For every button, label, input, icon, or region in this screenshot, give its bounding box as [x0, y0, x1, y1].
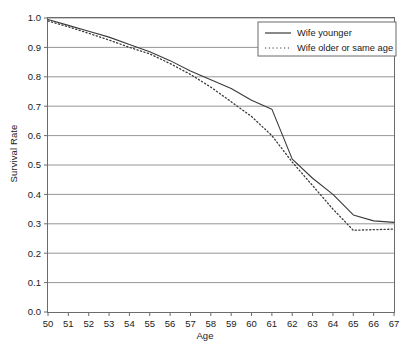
x-axis-label: Age — [0, 330, 410, 341]
x-tick-label: 64 — [328, 318, 339, 329]
x-tick-label: 55 — [144, 318, 155, 329]
survival-rate-chart: 505152535455565758596061626364656667 0.0… — [0, 0, 410, 347]
chart-legend: Wife youngerWife older or same age — [258, 22, 396, 56]
y-tick-label: 0.3 — [28, 218, 41, 229]
y-tick-label: 0.0 — [28, 306, 41, 317]
y-tick-label: 0.6 — [28, 130, 41, 141]
y-axis-ticks: 0.00.10.20.30.40.50.60.70.80.91.0 — [28, 12, 48, 317]
x-tick-label: 50 — [43, 318, 54, 329]
x-tick-label: 63 — [307, 318, 318, 329]
y-tick-label: 0.1 — [28, 277, 41, 288]
x-axis-ticks: 505152535455565758596061626364656667 — [43, 312, 400, 329]
x-tick-label: 54 — [124, 318, 135, 329]
x-tick-label: 62 — [287, 318, 298, 329]
y-tick-label: 0.4 — [28, 189, 41, 200]
y-tick-label: 0.9 — [28, 42, 41, 53]
x-tick-label: 57 — [185, 318, 196, 329]
x-tick-label: 67 — [389, 318, 400, 329]
x-tick-label: 51 — [63, 318, 74, 329]
y-tick-label: 0.7 — [28, 101, 41, 112]
x-tick-label: 52 — [83, 318, 94, 329]
y-tick-label: 1.0 — [28, 12, 41, 23]
x-tick-label: 66 — [368, 318, 379, 329]
x-tick-label: 58 — [206, 318, 217, 329]
legend-label: Wife younger — [297, 28, 352, 38]
y-tick-label: 0.2 — [28, 248, 41, 259]
x-tick-label: 59 — [226, 318, 237, 329]
x-tick-label: 61 — [267, 318, 278, 329]
y-axis-label: Survival Rate — [8, 114, 19, 194]
gridlines — [48, 18, 394, 283]
y-tick-label: 0.8 — [28, 71, 41, 82]
y-tick-label: 0.5 — [28, 159, 41, 170]
x-tick-label: 53 — [104, 318, 115, 329]
legend-label: Wife older or same age — [297, 43, 393, 53]
x-tick-label: 65 — [348, 318, 359, 329]
x-tick-label: 56 — [165, 318, 176, 329]
x-tick-label: 60 — [246, 318, 257, 329]
chart-canvas: 505152535455565758596061626364656667 0.0… — [0, 0, 410, 347]
